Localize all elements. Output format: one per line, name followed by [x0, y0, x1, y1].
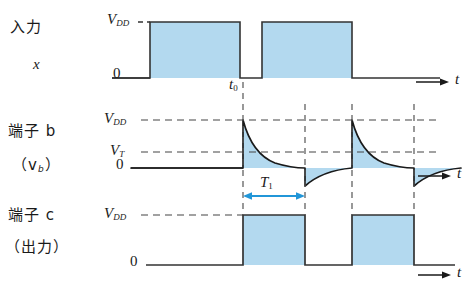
vc-vdd-axis-label: VDD: [104, 205, 126, 222]
t1-annotation: T1: [260, 174, 273, 191]
vc-time-axis-arrow: [418, 271, 451, 278]
vc-vdd-sub: DD: [113, 212, 126, 222]
vc-vdd-v: V: [104, 205, 113, 221]
row-label-c-line2: （出力）: [5, 240, 69, 255]
vc-pulse-fill-2: [352, 215, 414, 265]
row-label-b-paren-close: ）: [45, 156, 61, 174]
t0-sub: 0: [233, 83, 238, 93]
input-time-axis-label: t: [455, 72, 459, 87]
vb-waveform-trace: [131, 120, 461, 186]
input-time-axis-arrow: [416, 78, 449, 85]
vb-vdd-v: V: [104, 110, 113, 126]
waveform-terminal-c: [141, 215, 455, 279]
row-label-b-paren-open: （v: [12, 156, 38, 174]
vc-time-axis-label: t: [457, 265, 461, 280]
row-label-input-line1: 入力: [10, 20, 42, 35]
t1-sub: 1: [268, 181, 273, 191]
waveform-terminal-b: [131, 120, 461, 186]
row-label-b-line2: （vb）: [12, 158, 61, 174]
t1-span-arrow: [243, 192, 305, 200]
input-vdd-axis-label: VDD: [107, 11, 129, 28]
row-label-input-line2: x: [33, 57, 40, 72]
vertical-guide-lines: [243, 82, 414, 215]
timing-diagram-figure: 入力 x VDD 0 t t0 端子 b （vb） VDD VT 0 t T1 …: [0, 0, 476, 295]
vb-undershoot-fill-1: [305, 168, 352, 186]
input-zero-axis-label: 0: [113, 66, 121, 81]
row-label-c-line1: 端子 c: [8, 208, 55, 223]
row-label-b-line1: 端子 b: [8, 124, 56, 139]
vb-vdd-sub: DD: [113, 117, 126, 127]
vb-vdd-axis-label: VDD: [104, 110, 126, 127]
vb-time-axis-label: t: [457, 166, 461, 181]
input-vdd-v: V: [107, 11, 116, 27]
input-vdd-sub: DD: [116, 18, 129, 28]
t0-annotation: t0: [229, 76, 238, 93]
vb-zero-axis-label: 0: [116, 157, 124, 172]
waveform-input-x: [112, 22, 449, 86]
row-label-b-sub: b: [38, 164, 45, 174]
waveform-svg: [0, 0, 476, 295]
vb-undershoot-fill-2: [414, 168, 461, 186]
input-pulse-fill-1: [150, 22, 240, 78]
vc-zero-axis-label: 0: [130, 254, 138, 269]
input-pulse-fill-2: [262, 22, 352, 78]
vc-pulse-fill-1: [243, 215, 305, 265]
